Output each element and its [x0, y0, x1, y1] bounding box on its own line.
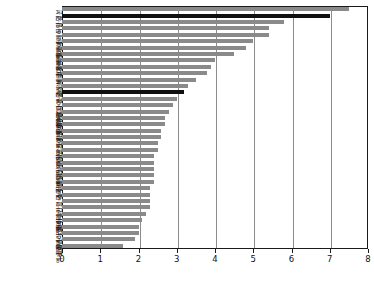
bar [62, 237, 135, 241]
bar-row [62, 205, 150, 209]
bar-row [62, 110, 169, 114]
bar-row [62, 52, 234, 56]
bar [62, 122, 165, 126]
bar-row [62, 71, 207, 75]
x-axis-tick-label: 0 [59, 254, 64, 264]
bar-row [62, 116, 165, 120]
bar-row [62, 237, 135, 241]
bar [62, 173, 154, 177]
bar-row [62, 78, 196, 82]
bar [62, 110, 169, 114]
bar-row [62, 65, 211, 69]
bar [62, 193, 150, 197]
bar [62, 244, 123, 248]
x-axis-tick-label: 4 [212, 254, 217, 264]
bar-row [62, 14, 330, 18]
bar-row [62, 199, 150, 203]
bar-row [62, 26, 269, 30]
x-axis-tick-label: 6 [289, 254, 294, 264]
bar-row [62, 148, 158, 152]
bar-row [62, 231, 139, 235]
x-axis-tick [100, 249, 101, 253]
bar [62, 7, 349, 11]
bar-row [62, 161, 154, 165]
x-axis-tick [253, 249, 254, 253]
x-axis-tick [330, 249, 331, 253]
bar [62, 148, 158, 152]
x-axis-tick [139, 249, 140, 253]
bar [62, 20, 284, 24]
bar [62, 33, 269, 37]
bar [62, 14, 330, 18]
bar-row [62, 218, 142, 222]
bar-row [62, 122, 165, 126]
x-axis-tick-label: 2 [136, 254, 141, 264]
bar-row [62, 193, 150, 197]
bars-layer [62, 6, 368, 249]
bar [62, 129, 161, 133]
bar [62, 135, 161, 139]
x-axis-tick-label: 1 [98, 254, 103, 264]
bar-row [62, 225, 139, 229]
bar [62, 186, 150, 190]
bar [62, 84, 188, 88]
bar [62, 141, 158, 145]
bar [62, 167, 154, 171]
bar-row [62, 135, 161, 139]
bar-row [62, 7, 349, 11]
bar-row [62, 212, 146, 216]
bar-chart: 일본한국독일오스트리아리투아니아벨기에슬로바키아폴란드헝가리슬로베니아체코그리스… [0, 0, 374, 281]
bar-row [62, 97, 177, 101]
bar [62, 90, 184, 94]
bar [62, 46, 246, 50]
x-axis-tick [215, 249, 216, 253]
x-axis-tick [292, 249, 293, 253]
bar [62, 218, 142, 222]
bar [62, 78, 196, 82]
bar-row [62, 20, 284, 24]
bar-row [62, 103, 173, 107]
bar [62, 39, 253, 43]
bar [62, 65, 211, 69]
bar-row [62, 141, 158, 145]
bar [62, 199, 150, 203]
bar-row [62, 244, 123, 248]
y-axis-labels: 일본한국독일오스트리아리투아니아벨기에슬로바키아폴란드헝가리슬로베니아체코그리스… [0, 6, 61, 249]
x-axis-tick-label: 5 [251, 254, 256, 264]
bar [62, 97, 177, 101]
bar [62, 103, 173, 107]
bar [62, 205, 150, 209]
bar [62, 161, 154, 165]
x-axis-tick [368, 249, 369, 253]
bar-row [62, 129, 161, 133]
bar-row [62, 90, 184, 94]
bar [62, 154, 154, 158]
bar [62, 231, 139, 235]
bar-row [62, 33, 269, 37]
x-axis-tick-label: 3 [174, 254, 179, 264]
bar-row [62, 39, 253, 43]
bar-row [62, 173, 154, 177]
bar [62, 26, 269, 30]
bar-row [62, 58, 215, 62]
bar [62, 116, 165, 120]
bar [62, 225, 139, 229]
bar [62, 52, 234, 56]
bar [62, 180, 154, 184]
bar [62, 71, 207, 75]
bar-row [62, 84, 188, 88]
bar [62, 58, 215, 62]
bar [62, 212, 146, 216]
x-axis: 012345678 [62, 249, 368, 273]
bar-row [62, 46, 246, 50]
bar-row [62, 154, 154, 158]
x-axis-tick-label: 7 [327, 254, 332, 264]
bar-row [62, 180, 154, 184]
x-axis-tick [62, 249, 63, 253]
bar-row [62, 186, 150, 190]
x-axis-tick [177, 249, 178, 253]
bar-row [62, 167, 154, 171]
x-axis-tick-label: 8 [365, 254, 370, 264]
